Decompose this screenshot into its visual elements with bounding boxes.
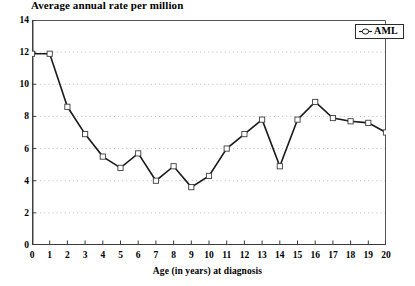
- data-point-marker: [348, 119, 353, 124]
- data-point-marker: [136, 151, 141, 156]
- y-axis-tick-labels: 02468101214: [0, 0, 29, 286]
- y-tick-label: 14: [5, 15, 29, 25]
- y-tick-label: 0: [5, 240, 29, 250]
- data-point-marker: [189, 185, 194, 190]
- data-point-marker: [100, 154, 105, 159]
- aml-series-marker-icon: [359, 27, 372, 36]
- x-tick-label: 20: [376, 250, 396, 260]
- data-point-marker: [242, 132, 247, 137]
- y-tick-label: 4: [5, 176, 29, 186]
- data-point-marker: [83, 132, 88, 137]
- data-point-marker: [366, 120, 371, 125]
- legend-label-aml: AML: [374, 26, 398, 36]
- data-point-marker: [153, 178, 158, 183]
- y-tick-label: 6: [5, 144, 29, 154]
- plot-svg: [32, 20, 386, 245]
- data-point-marker: [32, 51, 35, 56]
- data-point-marker: [224, 146, 229, 151]
- data-point-marker: [47, 51, 52, 56]
- legend-marker-svg: [359, 27, 372, 36]
- data-point-marker: [118, 165, 123, 170]
- data-point-marker: [277, 164, 282, 169]
- chart-container: Average annual rate per million 02468101…: [0, 0, 415, 286]
- data-point-marker: [383, 130, 386, 135]
- y-tick-label: 10: [5, 79, 29, 89]
- data-point-marker: [260, 117, 265, 122]
- chart-legend[interactable]: AML: [355, 24, 404, 39]
- plot-area: [32, 20, 386, 245]
- data-point-marker: [206, 173, 211, 178]
- y-tick-label: 2: [5, 208, 29, 218]
- data-point-marker: [295, 117, 300, 122]
- y-tick-label: 8: [5, 111, 29, 121]
- y-tick-label: 12: [5, 47, 29, 57]
- x-axis-label: Age (in years) at diagnosis: [0, 266, 415, 276]
- data-point-marker: [313, 99, 318, 104]
- data-point-marker: [330, 115, 335, 120]
- data-point-marker: [171, 164, 176, 169]
- data-point-marker: [65, 104, 70, 109]
